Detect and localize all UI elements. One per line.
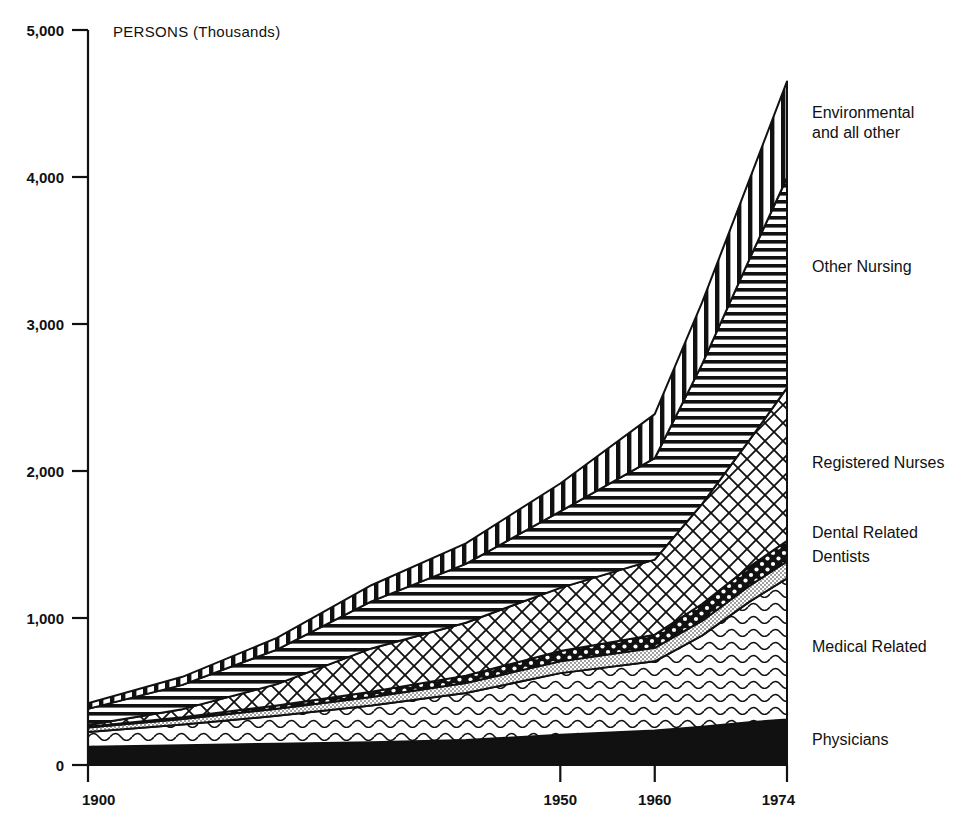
series-label-dentists: Dentists bbox=[812, 548, 870, 565]
series-label-registered-nurses: Registered Nurses bbox=[812, 454, 945, 471]
y-tick-label-4000: 4,000 bbox=[26, 169, 64, 186]
x-tick-label-1900: 1900 bbox=[82, 791, 115, 808]
x-tick-label-1974: 1974 bbox=[762, 791, 796, 808]
y-tick-label-2000: 2,000 bbox=[26, 463, 64, 480]
y-tick-label-3000: 3,000 bbox=[26, 316, 64, 333]
y-tick-label-0: 0 bbox=[56, 757, 64, 774]
y-tick-label-1000: 1,000 bbox=[26, 610, 64, 627]
y-tick-label-5000: 5,000 bbox=[26, 22, 64, 39]
series-label-dental-related: Dental Related bbox=[812, 524, 918, 541]
x-tick-label-1960: 1960 bbox=[638, 791, 671, 808]
series-label-medical-related: Medical Related bbox=[812, 638, 927, 655]
series-label-physicians: Physicians bbox=[812, 731, 888, 748]
series-label-other-nursing: Other Nursing bbox=[812, 258, 912, 275]
chart-canvas: 01,0002,0003,0004,0005,000 1900195019601… bbox=[0, 0, 977, 822]
units-note: PERSONS (Thousands) bbox=[113, 23, 280, 40]
x-tick-label-1950: 1950 bbox=[544, 791, 577, 808]
health-manpower-stacked-area-chart: 01,0002,0003,0004,0005,000 1900195019601… bbox=[0, 0, 977, 822]
